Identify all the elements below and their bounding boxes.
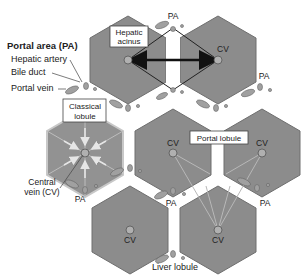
cv-label-b: CV [217,44,229,54]
central-vein-label-2: vein (CV) [24,187,60,197]
pa-label-mid: PA [166,198,177,208]
svg-text:acinus: acinus [117,37,140,46]
pa-label-bright: PA [260,198,271,208]
pa-label-left: PA [75,194,86,204]
cv-label-d: CV [167,138,179,148]
cv-label-f: CV [124,235,136,245]
pa-label-right: PA [259,71,270,81]
hepatic-artery-label: Hepatic artery [11,54,68,64]
portal-area-title: Portal area (PA) [7,40,78,51]
svg-text:Portal lobule: Portal lobule [197,134,242,143]
svg-text:lobule: lobule [74,112,96,121]
portal-lobule-box: Portal lobule [190,131,248,144]
portal-vein-label: Portal vein [11,83,54,93]
classical-lobule-box: Classical lobule [63,99,106,122]
cv-label-e: CV [256,138,268,148]
svg-text:Hepatic: Hepatic [115,28,142,37]
liver-lobule-caption: Liver lobule [152,262,198,272]
pa-label-top: PA [168,11,179,21]
central-vein-label-1: Central [28,177,56,187]
hepatic-acinus-box: Hepatic acinus [110,26,148,47]
cv-label-g: CV [212,235,224,245]
svg-text:Classical: Classical [69,102,101,111]
bile-duct-label: Bile duct [11,67,46,77]
liver-lobule-diagram: Portal area (PA) Hepatic artery Bile duc… [0,0,306,276]
